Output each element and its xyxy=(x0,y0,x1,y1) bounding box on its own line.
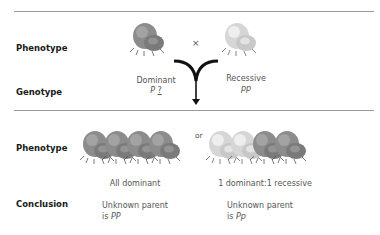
recessive-parent-genotype: pp xyxy=(216,84,276,93)
outcome-ratio-label: 1 dominant:1 recessive xyxy=(210,179,320,188)
offspring-flower-dominant-icon xyxy=(272,130,312,168)
outcome-all-dominant-label: All dominant xyxy=(95,179,175,188)
row-label-genotype: Genotype xyxy=(16,87,62,97)
genotype-unknown-allele: ? xyxy=(158,86,162,95)
recessive-parent-flower-icon xyxy=(222,22,262,60)
dominant-parent-genotype: P ? xyxy=(128,86,184,95)
row-label-phenotype-offspring: Phenotype xyxy=(16,143,67,153)
conclusion-b-line2: is Pp xyxy=(227,211,293,222)
row-label-phenotype-parents: Phenotype xyxy=(16,43,67,53)
conclusion-b-line1: Unknown parent xyxy=(227,200,293,211)
recessive-parent-label: Recessive xyxy=(216,74,276,83)
conclusion-a-line1: Unknown parent xyxy=(102,200,168,211)
genotype-known-allele: P xyxy=(150,86,155,95)
dominant-parent-label: Dominant xyxy=(128,76,184,85)
conclusion-a-prefix: is xyxy=(102,212,111,221)
middle-divider xyxy=(14,110,374,111)
offspring-mixed-group xyxy=(206,130,316,170)
conclusion-b-genotype: Pp xyxy=(236,212,246,221)
conclusion-a-line2: is PP xyxy=(102,211,168,222)
dominant-parent-flower-icon xyxy=(130,22,170,60)
conclusion-a: Unknown parent is PP xyxy=(102,200,168,222)
conclusion-b: Unknown parent is Pp xyxy=(227,200,293,222)
top-divider xyxy=(14,11,374,12)
conclusion-b-prefix: is xyxy=(227,212,236,221)
or-label: or xyxy=(195,131,203,140)
conclusion-a-genotype: PP xyxy=(111,212,121,221)
cross-symbol: × xyxy=(192,38,200,48)
offspring-all-dominant-group xyxy=(80,130,190,170)
row-label-conclusion: Conclusion xyxy=(16,199,68,209)
offspring-flower-dominant-icon xyxy=(146,130,186,168)
